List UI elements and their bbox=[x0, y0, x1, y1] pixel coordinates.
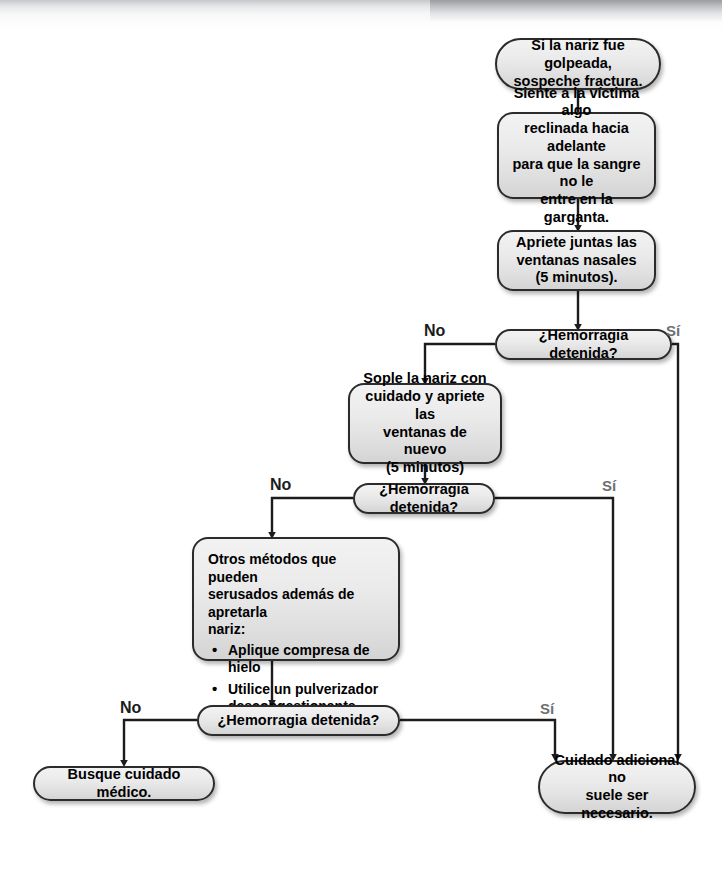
node-other-methods-intro-line-1: Otros métodos que pueden bbox=[208, 551, 336, 585]
node-sit-victim-line-3: para que la sangre no le bbox=[509, 156, 644, 191]
node-decision-3[interactable]: ¿Hemorragia detenida? bbox=[197, 705, 400, 736]
branch-label-no-2: No bbox=[270, 476, 291, 494]
node-sit-victim-line-4: entre en la garganta. bbox=[509, 191, 644, 226]
node-blow-nose-line-2: cuidado y apriete las bbox=[360, 388, 490, 423]
node-decision-2-label: ¿Hemorragia detenida? bbox=[369, 481, 479, 516]
node-pinch-nostrils[interactable]: Apriete juntas las ventanas nasales (5 m… bbox=[497, 230, 656, 291]
branch-label-no-3: No bbox=[120, 699, 141, 717]
node-other-methods-intro-line-2: serusados además de apretarla bbox=[208, 586, 354, 620]
node-blow-nose-line-1: Sople la nariz con bbox=[360, 370, 490, 388]
bullet-dot-icon: • bbox=[212, 641, 217, 660]
node-other-methods-bullet-1-line-1: Aplique compresa de hielo bbox=[228, 642, 370, 676]
node-other-methods-intro-line-3: nariz: bbox=[208, 621, 245, 637]
node-sit-victim-line-2: reclinada hacia adelante bbox=[509, 120, 644, 155]
node-decision-1-label: ¿Hemorragia detenida? bbox=[511, 327, 656, 362]
node-decision-1[interactable]: ¿Hemorragia detenida? bbox=[495, 329, 672, 360]
flowchart-diagram: No Sí No Sí No Sí Si la nariz fue golpea… bbox=[0, 0, 722, 872]
node-pinch-nostrils-line-2: ventanas nasales bbox=[516, 252, 637, 270]
node-other-methods-bullet-1: • Aplique compresa de hielo bbox=[208, 642, 385, 677]
connector-decision2-no bbox=[272, 498, 353, 535]
node-sit-victim-line-1: Siente a la víctima algo bbox=[509, 85, 644, 120]
connector-decision1-si bbox=[672, 344, 678, 757]
connector-decision3-si bbox=[400, 720, 555, 757]
node-blow-nose-line-4: (5 minutos) bbox=[360, 459, 490, 477]
node-pinch-nostrils-line-3: (5 minutos). bbox=[516, 269, 637, 287]
branch-label-no-1: No bbox=[424, 322, 445, 340]
node-seek-medical-care[interactable]: Busque cuidado médico. bbox=[33, 766, 215, 801]
node-seek-medical-care-line-1: Busque cuidado médico. bbox=[47, 766, 201, 801]
node-pinch-nostrils-line-1: Apriete juntas las bbox=[516, 234, 637, 252]
bullet-dot-icon: • bbox=[212, 680, 217, 699]
node-no-extra-care-line-2: suele ser necesario. bbox=[552, 787, 682, 822]
node-blow-nose[interactable]: Sople la nariz con cuidado y apriete las… bbox=[348, 383, 502, 464]
connector-decision3-no bbox=[124, 720, 197, 763]
branch-label-si-3: Sí bbox=[540, 700, 554, 717]
node-no-extra-care[interactable]: Cuidado adicional no suele ser necesario… bbox=[538, 760, 696, 814]
branch-label-si-2: Sí bbox=[602, 477, 616, 494]
node-other-methods[interactable]: Otros métodos que pueden serusados ademá… bbox=[192, 537, 400, 661]
node-sit-victim[interactable]: Siente a la víctima algo reclinada hacia… bbox=[497, 112, 656, 199]
node-decision-2[interactable]: ¿Hemorragia detenida? bbox=[353, 483, 495, 514]
node-no-extra-care-line-1: Cuidado adicional no bbox=[552, 752, 682, 787]
node-decision-3-label: ¿Hemorragia detenida? bbox=[218, 712, 380, 730]
node-start-note-line-1: Si la nariz fue golpeada, bbox=[509, 37, 647, 72]
node-other-methods-bullet-2-line-1: Utilice un pulverizador bbox=[228, 681, 378, 697]
branch-label-si-1: Sí bbox=[666, 322, 680, 339]
node-blow-nose-line-3: ventanas de nuevo bbox=[360, 424, 490, 459]
node-start-note[interactable]: Si la nariz fue golpeada, sospeche fract… bbox=[495, 38, 661, 90]
connector-decision2-si bbox=[495, 498, 613, 757]
